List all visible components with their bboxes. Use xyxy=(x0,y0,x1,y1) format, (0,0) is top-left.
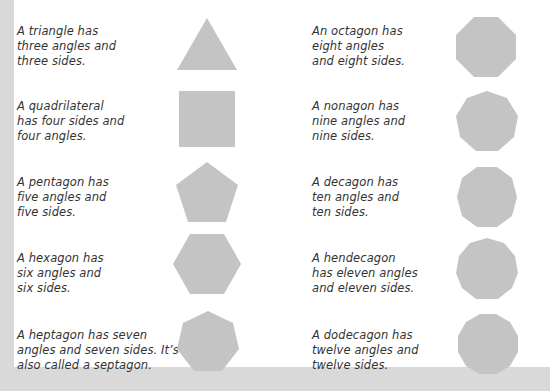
octagon-icon xyxy=(455,16,517,78)
pentagon-description: A pentagon has five angles and five side… xyxy=(17,175,109,220)
decagon-icon xyxy=(456,166,518,228)
triangle-icon xyxy=(176,16,238,72)
quadrilateral-description: A quadrilateral has four sides and four … xyxy=(17,99,124,144)
heptagon-description: A heptagon has seven angles and seven si… xyxy=(17,328,179,373)
dodecagon-description: A dodecagon has twelve angles and twelve… xyxy=(312,328,419,373)
nonagon-icon xyxy=(455,90,519,154)
dodecagon-icon xyxy=(457,313,519,375)
polygon-reference-card: A triangle has three angles and three si… xyxy=(14,0,550,367)
triangle-description: A triangle has three angles and three si… xyxy=(17,24,116,69)
hexagon-icon xyxy=(172,233,242,295)
nonagon-description: A nonagon has nine angles and nine sides… xyxy=(312,99,405,144)
pentagon-icon xyxy=(175,161,239,223)
hendecagon-icon xyxy=(455,237,519,301)
decagon-description: A decagon has ten angles and ten sides. xyxy=(312,175,399,220)
heptagon-icon xyxy=(176,310,240,372)
octagon-description: An octagon has eight angles and eight si… xyxy=(312,24,405,69)
hexagon-description: A hexagon has six angles and six sides. xyxy=(17,251,104,296)
hendecagon-description: A hendecagon has eleven angles and eleve… xyxy=(312,251,418,296)
square-icon xyxy=(178,90,236,148)
